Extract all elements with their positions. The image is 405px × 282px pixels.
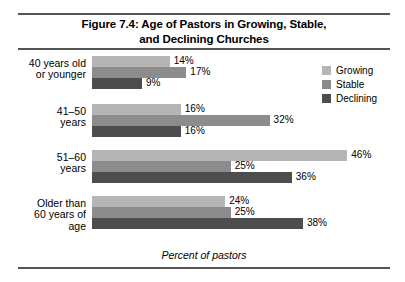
bar-value-label: 25% [235, 206, 255, 217]
bar-group: Older than60 years ofage24%25%38% [0, 196, 405, 230]
bar-value-label: 16% [185, 103, 205, 114]
figure-rule-bottom [18, 267, 390, 269]
bar-stack: 16%32%16% [92, 104, 405, 138]
bar-row: 36% [92, 172, 405, 183]
bar-growing [92, 150, 347, 161]
bar-value-label: 38% [307, 217, 327, 228]
legend-item-stable: Stable [322, 78, 377, 91]
legend-label-stable: Stable [336, 79, 364, 90]
bar-stack: 46%25%36% [92, 150, 405, 184]
bar-row: 25% [92, 207, 405, 218]
bar-stable [92, 207, 231, 218]
category-label: 51–60years [0, 152, 86, 175]
category-label-line: or younger [0, 69, 86, 80]
legend-item-declining: Declining [322, 92, 377, 105]
bar-value-label: 24% [229, 195, 249, 206]
bar-growing [92, 104, 181, 115]
legend-item-growing: Growing [322, 64, 377, 77]
category-label: Older than60 years ofage [0, 198, 86, 232]
category-label: 41–50years [0, 106, 86, 129]
figure-container: Figure 7.4: Age of Pastors in Growing, S… [0, 0, 405, 282]
legend-label-growing: Growing [336, 65, 373, 76]
bar-value-label: 16% [185, 125, 205, 136]
bar-growing [92, 196, 225, 207]
figure-title-line-2: and Declining Churches [20, 32, 388, 47]
x-axis-label: Percent of pastors [20, 249, 388, 261]
title-rule-bottom [18, 48, 390, 50]
legend-swatch-growing [322, 66, 331, 75]
figure-title-line-1: Figure 7.4: Age of Pastors in Growing, S… [20, 17, 388, 32]
category-label: 40 years oldor younger [0, 58, 86, 81]
bar-row: 16% [92, 126, 405, 137]
chart-legend: Growing Stable Declining [322, 64, 377, 106]
bar-row: 25% [92, 161, 405, 172]
bar-row: 38% [92, 218, 405, 229]
bar-stable [92, 115, 270, 126]
bar-value-label: 32% [274, 114, 294, 125]
legend-swatch-declining [322, 94, 331, 103]
bar-value-label: 25% [235, 160, 255, 171]
bar-value-label: 17% [190, 66, 210, 77]
bar-growing [92, 56, 170, 67]
bar-value-label: 46% [351, 149, 371, 160]
legend-label-declining: Declining [336, 93, 377, 104]
bar-row: 32% [92, 115, 405, 126]
bar-stable [92, 161, 231, 172]
bar-group: 51–60years46%25%36% [0, 150, 405, 184]
category-label-line: years [0, 163, 86, 174]
bar-stack: 24%25%38% [92, 196, 405, 230]
bar-declining [92, 172, 292, 183]
legend-swatch-stable [322, 80, 331, 89]
category-label-line: age [0, 221, 86, 232]
bar-declining [92, 218, 303, 229]
figure-title: Figure 7.4: Age of Pastors in Growing, S… [20, 17, 388, 46]
bar-value-label: 36% [296, 171, 316, 182]
bar-declining [92, 78, 142, 89]
bar-stable [92, 67, 186, 78]
bar-declining [92, 126, 181, 137]
bar-group: 41–50years16%32%16% [0, 104, 405, 138]
title-rule-top [18, 13, 390, 15]
category-label-line: years [0, 117, 86, 128]
bar-value-label: 9% [146, 77, 160, 88]
bar-value-label: 14% [174, 55, 194, 66]
